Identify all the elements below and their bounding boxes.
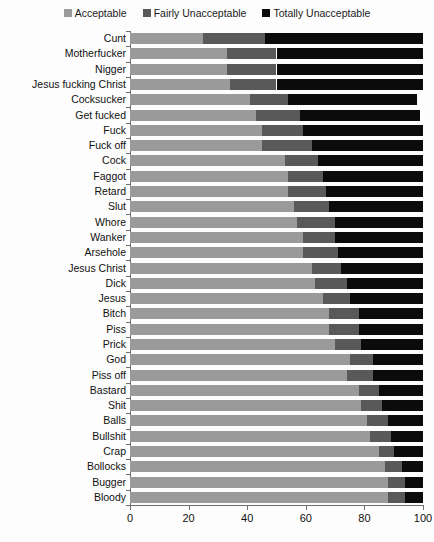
y-axis-tick bbox=[126, 31, 130, 32]
x-axis-tick bbox=[130, 506, 131, 510]
bar-segment bbox=[379, 385, 423, 396]
bar-segment bbox=[347, 278, 423, 289]
y-axis-label: Piss bbox=[0, 324, 126, 335]
y-axis-label: Motherfucker bbox=[0, 48, 126, 59]
y-axis-label: Bastard bbox=[0, 385, 126, 396]
y-axis-label: Bollocks bbox=[0, 461, 126, 472]
y-axis-label: God bbox=[0, 354, 126, 365]
bar-row bbox=[130, 201, 423, 212]
y-axis-tick bbox=[126, 62, 130, 63]
bar-segment bbox=[318, 155, 423, 166]
bar-segment bbox=[130, 293, 323, 304]
y-axis-tick bbox=[126, 505, 130, 506]
bar-segment bbox=[388, 415, 423, 426]
bar-segment bbox=[277, 48, 424, 59]
bar-segment bbox=[350, 354, 373, 365]
x-axis-label: 100 bbox=[414, 512, 432, 524]
bar-segment bbox=[256, 110, 300, 121]
y-axis-tick bbox=[126, 474, 130, 475]
bar-segment bbox=[303, 232, 335, 243]
bar-segment bbox=[326, 186, 423, 197]
y-axis-label: Wanker bbox=[0, 232, 126, 243]
bar-row bbox=[130, 64, 423, 75]
bar-segment bbox=[312, 263, 341, 274]
bar-segment bbox=[130, 324, 329, 335]
bar-row bbox=[130, 110, 423, 121]
legend-swatch-icon bbox=[262, 9, 270, 17]
y-axis-tick bbox=[126, 413, 130, 414]
bar-segment bbox=[405, 492, 423, 503]
bar-segment bbox=[130, 477, 388, 488]
bar-segment bbox=[130, 94, 250, 105]
bar-segment bbox=[130, 125, 262, 136]
y-axis-label: Dick bbox=[0, 278, 126, 289]
bar-row bbox=[130, 79, 423, 90]
bar-segment bbox=[130, 263, 312, 274]
x-axis-tick bbox=[364, 506, 365, 510]
bar-segment bbox=[335, 232, 423, 243]
bar-segment bbox=[388, 477, 406, 488]
y-axis-tick bbox=[126, 92, 130, 93]
bar-segment bbox=[329, 201, 423, 212]
bar-segment bbox=[203, 33, 265, 44]
bar-segment bbox=[130, 171, 288, 182]
bar-row bbox=[130, 125, 423, 136]
bar-row bbox=[130, 232, 423, 243]
y-axis-tick bbox=[126, 230, 130, 231]
bar-row bbox=[130, 186, 423, 197]
bar-segment bbox=[350, 293, 423, 304]
y-axis-label: Crap bbox=[0, 446, 126, 457]
bar-segment bbox=[394, 446, 423, 457]
bar-segment bbox=[303, 125, 423, 136]
bar-segment bbox=[391, 431, 423, 442]
y-axis-category-labels: CuntMotherfuckerNiggerJesus fucking Chri… bbox=[0, 31, 126, 505]
y-axis-tick bbox=[126, 276, 130, 277]
y-axis-tick bbox=[126, 352, 130, 353]
y-axis-tick bbox=[126, 153, 130, 154]
bar-segment bbox=[288, 171, 323, 182]
bar-row bbox=[130, 278, 423, 289]
bar-row bbox=[130, 247, 423, 258]
bar-segment bbox=[388, 492, 406, 503]
bar-segment bbox=[262, 140, 312, 151]
bar-row bbox=[130, 385, 423, 396]
x-axis-tick bbox=[247, 506, 248, 510]
bar-row bbox=[130, 293, 423, 304]
chart-legend: AcceptableFairly UnacceptableTotally Una… bbox=[0, 4, 434, 22]
bar-segment bbox=[385, 461, 403, 472]
bar-segment bbox=[303, 247, 338, 258]
bar-segment bbox=[130, 140, 262, 151]
x-axis-label: 40 bbox=[241, 512, 253, 524]
y-axis-label: Shit bbox=[0, 400, 126, 411]
bar-segment bbox=[130, 186, 288, 197]
x-axis-label: 80 bbox=[358, 512, 370, 524]
bar-segment bbox=[230, 79, 277, 90]
stacked-bar-chart: AcceptableFairly UnacceptableTotally Una… bbox=[0, 0, 434, 542]
bar-row bbox=[130, 217, 423, 228]
bar-segment bbox=[130, 492, 388, 503]
y-axis-tick bbox=[126, 322, 130, 323]
bar-segment bbox=[405, 477, 423, 488]
bar-segment bbox=[359, 385, 380, 396]
y-axis-label: Fuck bbox=[0, 125, 126, 136]
x-axis-label: 20 bbox=[182, 512, 194, 524]
bar-segment bbox=[315, 278, 347, 289]
bar-segment bbox=[373, 354, 423, 365]
y-axis-label: Jesus Christ bbox=[0, 263, 126, 274]
y-axis-label: Cocksucker bbox=[0, 94, 126, 105]
y-axis-label: Nigger bbox=[0, 64, 126, 75]
bar-row bbox=[130, 155, 423, 166]
bar-segment bbox=[130, 110, 256, 121]
bar-row bbox=[130, 140, 423, 151]
y-axis-tick bbox=[126, 291, 130, 292]
bar-segment bbox=[323, 171, 423, 182]
bar-row bbox=[130, 446, 423, 457]
bar-row bbox=[130, 33, 423, 44]
y-axis-tick bbox=[126, 444, 130, 445]
y-axis-tick bbox=[126, 169, 130, 170]
bar-segment bbox=[367, 415, 388, 426]
bar-row bbox=[130, 431, 423, 442]
y-axis-label: Get fucked bbox=[0, 110, 126, 121]
bar-segment bbox=[338, 247, 423, 258]
bar-segment bbox=[359, 324, 423, 335]
